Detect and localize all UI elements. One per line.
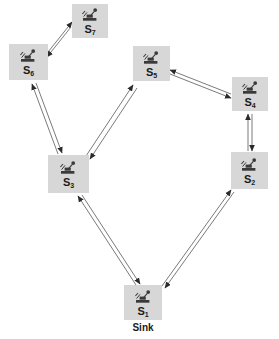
edge-s2-s1 (162, 190, 234, 288)
edge-s5-s3 (86, 85, 137, 159)
node-s7[interactable]: S7 (72, 4, 108, 38)
node-label: S2 (244, 174, 255, 185)
node-label-subscript: 6 (30, 70, 34, 77)
node-label: S1 (137, 306, 148, 317)
node-label: S4 (244, 97, 255, 108)
sensor-mote-icon (240, 158, 259, 173)
node-label-subscript: 7 (92, 29, 96, 36)
node-s5[interactable]: S5 (133, 46, 170, 81)
node-s1-sink[interactable]: S1 (124, 285, 162, 320)
edge-s7-s6 (47, 22, 72, 57)
node-label-subscript: 2 (251, 179, 255, 186)
node-label-text: S (244, 96, 251, 108)
sink-caption: Sink (111, 322, 175, 333)
node-label-subscript: 5 (153, 72, 157, 79)
network-topology-diagram: S7 S6 (0, 0, 279, 339)
edge-s4-s2 (248, 114, 252, 151)
node-label-subscript: 4 (252, 102, 256, 109)
edge-s3-s1 (78, 195, 140, 285)
node-s2[interactable]: S2 (231, 152, 268, 189)
sensor-mote-icon (134, 290, 153, 305)
edge-s5-s4 (170, 70, 231, 98)
node-label: S7 (84, 24, 95, 35)
node-s3[interactable]: S3 (48, 155, 89, 193)
node-label-text: S (137, 305, 144, 317)
edge-s6-s3 (32, 83, 62, 154)
node-label-text: S (84, 23, 91, 35)
sensor-mote-icon (81, 8, 100, 23)
node-label: S3 (63, 177, 74, 188)
node-label: S5 (146, 67, 157, 78)
node-s4[interactable]: S4 (232, 77, 268, 111)
node-label-subscript: 1 (145, 311, 149, 318)
sensor-mote-icon (19, 49, 38, 64)
sensor-mote-icon (142, 51, 161, 66)
sensor-mote-icon (241, 81, 260, 96)
sensor-mote-icon (59, 161, 78, 176)
node-label-subscript: 3 (70, 182, 74, 189)
node-label: S6 (23, 65, 34, 76)
node-s6[interactable]: S6 (9, 44, 48, 80)
